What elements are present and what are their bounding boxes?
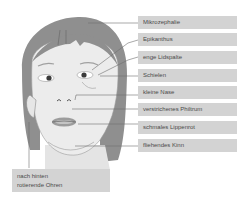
label-enge-lidspalte: enge Lidspalte <box>138 51 237 64</box>
label-schielen: Schielen <box>138 69 237 82</box>
ear-label-line1: nach hinten <box>17 172 110 181</box>
label-ear-rotation: nach hinten rotierende Ohren <box>12 169 110 192</box>
ear-label-line2: rotierende Ohren <box>17 181 110 190</box>
face-diagram: Mikrozephalie Epikanthus enge Lidspalte … <box>0 0 249 206</box>
label-verstrichenes-philtrum: verstrichenes Philtrum <box>138 103 237 116</box>
label-fliehendes-kinn: fliehendes Kinn <box>138 139 237 152</box>
label-epikanthus: Epikanthus <box>138 33 237 46</box>
label-schmales-lippenrot: schmales Lippenrot <box>138 121 237 134</box>
label-kleine-nase: kleine Nase <box>138 86 237 99</box>
label-mikrozephalie: Mikrozephalie <box>138 16 237 29</box>
